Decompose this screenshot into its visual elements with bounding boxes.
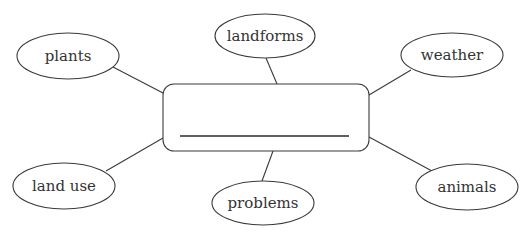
connector-problems bbox=[262, 151, 273, 181]
concept-web-diagram: plants landforms weather land use proble… bbox=[0, 0, 530, 233]
node-problems-label: problems bbox=[227, 194, 298, 212]
node-plants-label: plants bbox=[45, 47, 92, 65]
connector-weather bbox=[369, 70, 411, 95]
connector-landforms bbox=[266, 58, 277, 84]
node-land-use: land use bbox=[13, 163, 115, 209]
node-problems: problems bbox=[212, 181, 314, 225]
node-plants: plants bbox=[17, 33, 119, 79]
node-landforms: landforms bbox=[215, 14, 315, 58]
node-weather-label: weather bbox=[421, 46, 484, 64]
node-land-use-label: land use bbox=[32, 177, 96, 195]
node-landforms-label: landforms bbox=[227, 27, 304, 45]
connector-land-use bbox=[106, 138, 163, 171]
center-box-frame bbox=[163, 84, 369, 151]
connector-animals bbox=[369, 137, 432, 171]
node-animals: animals bbox=[416, 164, 518, 210]
node-weather: weather bbox=[401, 33, 503, 77]
node-animals-label: animals bbox=[437, 178, 496, 196]
connector-plants bbox=[113, 67, 163, 93]
center-topic-box[interactable] bbox=[163, 84, 369, 151]
